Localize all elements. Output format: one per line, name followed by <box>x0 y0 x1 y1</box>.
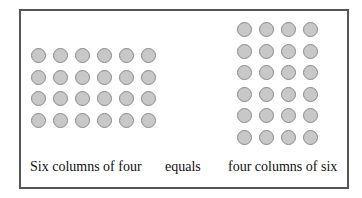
dot <box>141 70 156 85</box>
dot <box>53 113 68 128</box>
dot <box>75 48 90 63</box>
dot <box>303 108 318 123</box>
dot <box>259 130 274 145</box>
dot <box>281 44 296 59</box>
dot <box>237 65 252 80</box>
dot <box>53 91 68 106</box>
dot <box>237 22 252 37</box>
dot <box>237 130 252 145</box>
left-dot-array <box>31 48 155 127</box>
dot <box>259 65 274 80</box>
dot <box>97 48 112 63</box>
dot <box>237 44 252 59</box>
dot <box>75 91 90 106</box>
dot <box>53 48 68 63</box>
dot <box>281 130 296 145</box>
dot <box>303 130 318 145</box>
dot <box>259 44 274 59</box>
dot <box>141 48 156 63</box>
dot <box>141 91 156 106</box>
dot <box>237 108 252 123</box>
dot <box>237 87 252 102</box>
equals-label: equals <box>165 159 201 175</box>
dot <box>97 70 112 85</box>
dot <box>303 87 318 102</box>
dot <box>31 113 46 128</box>
dot <box>97 91 112 106</box>
dot <box>31 48 46 63</box>
dot <box>141 113 156 128</box>
dot <box>119 70 134 85</box>
right-dot-array <box>237 22 317 144</box>
dot <box>31 91 46 106</box>
dot <box>119 91 134 106</box>
dot <box>97 113 112 128</box>
dot <box>75 70 90 85</box>
dot <box>281 87 296 102</box>
dot <box>303 44 318 59</box>
dot <box>259 22 274 37</box>
dot <box>259 108 274 123</box>
dot <box>53 70 68 85</box>
dot <box>281 65 296 80</box>
right-array-label: four columns of six <box>228 159 337 175</box>
dot <box>75 113 90 128</box>
left-array-label: Six columns of four <box>30 159 142 175</box>
dot <box>119 113 134 128</box>
dot <box>259 87 274 102</box>
dot <box>303 22 318 37</box>
dot <box>119 48 134 63</box>
dot <box>303 65 318 80</box>
dot <box>31 70 46 85</box>
dot <box>281 108 296 123</box>
dot <box>281 22 296 37</box>
